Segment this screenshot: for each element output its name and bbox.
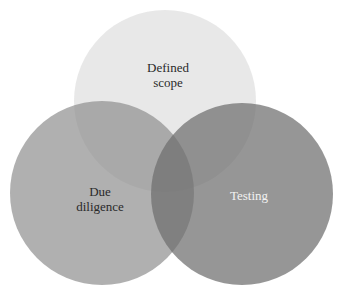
venn-diagram (0, 0, 343, 292)
venn-label-defined-scope: Defined scope (147, 60, 189, 90)
venn-label-due-diligence: Due diligence (76, 184, 124, 214)
venn-label-testing: Testing (230, 188, 268, 203)
